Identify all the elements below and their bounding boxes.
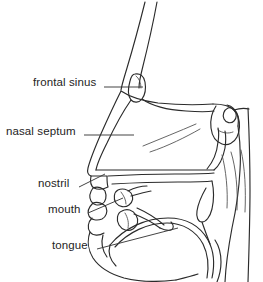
label-nostril: nostril	[38, 178, 69, 190]
cranial-back-edge	[234, 108, 249, 110]
pharynx-outer-wall	[248, 108, 250, 282]
pharynx-shading-1	[222, 155, 227, 208]
neck-front-outline	[176, 274, 198, 280]
label-nasal-septum: nasal septum	[6, 126, 76, 138]
label-mouth: mouth	[48, 204, 80, 216]
chin-inner	[102, 235, 107, 257]
soft-palate-uvula	[197, 181, 214, 222]
alveolar-ridge	[131, 191, 151, 196]
leader-tongue	[97, 228, 178, 249]
upper-teeth-crease	[121, 192, 126, 204]
tongue-surface-inner	[115, 223, 208, 278]
turbinate-curve-upper	[143, 124, 196, 146]
nose-bridge-outer	[121, 2, 145, 90]
upper-teeth	[114, 189, 132, 207]
pharynx-shading-2	[231, 152, 237, 210]
pharynx-shading-3	[241, 150, 245, 212]
label-tongue: tongue	[52, 240, 88, 252]
lower-lip	[88, 218, 104, 235]
tongue-body	[110, 218, 214, 278]
nasal-cavity-front-wall	[88, 91, 121, 176]
hard-palate-lower	[112, 181, 212, 184]
lower-teeth-crease	[125, 213, 128, 228]
upper-tooth-root	[128, 186, 147, 191]
sphenoid-roof	[213, 104, 238, 126]
nasal-anatomy-diagram: frontal sinus nasal septum nostril mouth…	[0, 0, 263, 282]
hard-palate-upper	[108, 173, 214, 176]
epiglottis	[215, 240, 221, 282]
anatomy-illustration	[0, 0, 263, 282]
tongue-base	[109, 245, 116, 266]
cranial-base-line	[142, 99, 214, 112]
label-frontal-sinus: frontal sinus	[33, 77, 96, 89]
